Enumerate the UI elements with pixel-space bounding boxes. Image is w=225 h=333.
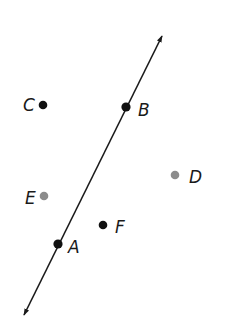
point-a: A [53, 237, 79, 257]
point-e-dot [40, 192, 49, 201]
line-ab [24, 36, 162, 315]
point-f-label: F [115, 217, 125, 237]
point-c-label: C [23, 95, 35, 115]
point-a-label: A [67, 237, 80, 257]
point-f-dot [99, 221, 108, 230]
point-f: F [99, 217, 125, 237]
point-e: E [25, 188, 48, 208]
point-b-label: B [138, 100, 150, 120]
point-b-dot [121, 102, 130, 111]
point-d-label: D [189, 167, 202, 187]
point-e-label: E [25, 188, 36, 208]
point-d-dot [171, 171, 180, 180]
point-c-dot [39, 101, 48, 110]
diagram-canvas: C B D E F A [0, 0, 225, 333]
point-c: C [23, 95, 47, 115]
point-d: D [171, 167, 202, 187]
point-b: B [121, 100, 149, 120]
point-a-dot [53, 239, 62, 248]
